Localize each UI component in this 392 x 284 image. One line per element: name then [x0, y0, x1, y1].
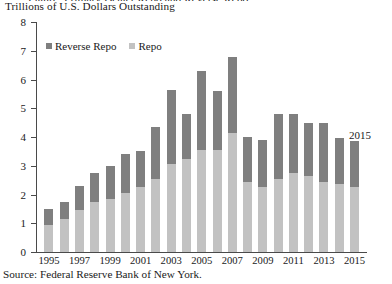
- x-axis-line: [36, 252, 367, 253]
- x-axis-tick-label: 1999: [100, 255, 121, 266]
- bar-2012: [304, 123, 313, 252]
- bar-segment-reverse-repo: [44, 209, 53, 225]
- y-axis-tick: [31, 252, 36, 253]
- x-axis-tick-label: 2003: [161, 255, 182, 266]
- bar-segment-reverse-repo: [60, 202, 69, 219]
- bar-segment-repo: [167, 164, 176, 252]
- bar-1998: [90, 173, 99, 252]
- x-axis-tick-label: 1997: [69, 255, 90, 266]
- y-axis-tick-label: 7: [12, 45, 26, 57]
- bar-segment-repo: [350, 187, 359, 252]
- bar-segment-repo: [182, 159, 191, 252]
- bar-segment-repo: [151, 179, 160, 252]
- bar-2013: [319, 123, 328, 252]
- bar-2008: [243, 137, 252, 252]
- bar-segment-reverse-repo: [319, 123, 328, 182]
- bar-segment-repo: [289, 173, 298, 252]
- bar-segment-repo: [319, 182, 328, 252]
- x-axis-tick-label: 2005: [191, 255, 212, 266]
- bar-segment-repo: [228, 133, 237, 252]
- bar-segment-repo: [44, 225, 53, 252]
- y-axis-tick-label: 8: [12, 16, 26, 28]
- bar-2014: [335, 138, 344, 252]
- bar-1999: [106, 166, 115, 252]
- bar-segment-reverse-repo: [274, 114, 283, 179]
- source-note: Source: Federal Reserve Bank of New York…: [3, 268, 202, 280]
- chart-subtitle: Trillions of U.S. Dollars Outstanding: [5, 0, 175, 12]
- bar-2011: [289, 114, 298, 252]
- y-axis-tick-label: 5: [12, 102, 26, 114]
- x-axis-tick-label: 2001: [130, 255, 151, 266]
- bar-segment-repo: [213, 150, 222, 252]
- y-axis-tick-label: 0: [12, 246, 26, 258]
- x-axis-tick-label: 2013: [313, 255, 334, 266]
- bar-segment-reverse-repo: [90, 173, 99, 202]
- x-axis-tick-label: 2015: [344, 255, 365, 266]
- bar-segment-repo: [335, 184, 344, 252]
- bar-segment-repo: [304, 176, 313, 252]
- bar-segment-reverse-repo: [182, 114, 191, 159]
- bar-2005: [197, 71, 206, 252]
- bar-segment-reverse-repo: [121, 154, 130, 193]
- bar-segment-reverse-repo: [228, 57, 237, 133]
- bar-2002: [151, 127, 160, 252]
- bar-segment-repo: [60, 219, 69, 252]
- bar-segment-repo: [75, 210, 84, 252]
- y-axis-tick-label: 6: [12, 74, 26, 86]
- bar-2000: [121, 154, 130, 252]
- bar-segment-reverse-repo: [335, 138, 344, 184]
- y-axis-tick-label: 3: [12, 160, 26, 172]
- bar-segment-repo: [197, 150, 206, 252]
- bar-2015: [350, 141, 359, 252]
- bar-segment-reverse-repo: [136, 151, 145, 187]
- chart-figure: Figure: Primary Dealer Repo and Reverse …: [0, 0, 392, 284]
- bar-1997: [75, 186, 84, 252]
- bar-segment-repo: [136, 187, 145, 252]
- bar-segment-repo: [121, 193, 130, 252]
- bar-segment-reverse-repo: [258, 140, 267, 187]
- plot-area: [36, 22, 366, 252]
- annotation-2015: 2015: [349, 129, 371, 141]
- bar-2004: [182, 114, 191, 252]
- x-axis-tick-label: 2011: [283, 255, 304, 266]
- bar-1995: [44, 209, 53, 252]
- bar-2006: [213, 91, 222, 252]
- bar-segment-repo: [274, 179, 283, 252]
- x-axis-tick-label: 2007: [222, 255, 243, 266]
- bar-segment-repo: [90, 202, 99, 252]
- bar-segment-reverse-repo: [75, 186, 84, 210]
- y-axis-tick-label: 1: [12, 217, 26, 229]
- bar-2003: [167, 90, 176, 252]
- bar-1996: [60, 202, 69, 252]
- bar-segment-reverse-repo: [151, 127, 160, 179]
- bar-2009: [258, 140, 267, 252]
- bar-segment-reverse-repo: [213, 91, 222, 150]
- bar-segment-reverse-repo: [304, 123, 313, 176]
- y-axis-tick-label: 2: [12, 189, 26, 201]
- bar-segment-repo: [243, 182, 252, 252]
- bar-segment-reverse-repo: [167, 90, 176, 165]
- bar-2001: [136, 151, 145, 252]
- bar-segment-reverse-repo: [289, 114, 298, 173]
- bar-2010: [274, 114, 283, 252]
- bar-segment-repo: [106, 199, 115, 252]
- y-axis-tick-label: 4: [12, 131, 26, 143]
- bar-segment-reverse-repo: [106, 166, 115, 199]
- bar-2007: [228, 57, 237, 253]
- x-axis-tick-label: 2009: [252, 255, 273, 266]
- bar-segment-reverse-repo: [243, 137, 252, 182]
- bar-segment-reverse-repo: [197, 71, 206, 150]
- x-axis-tick-label: 1995: [38, 255, 59, 266]
- bar-segment-reverse-repo: [350, 141, 359, 187]
- bar-segment-repo: [258, 187, 267, 252]
